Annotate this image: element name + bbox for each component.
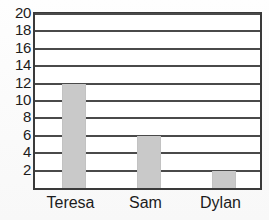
bar-sam	[137, 136, 161, 188]
gridline-14	[35, 65, 260, 67]
y-tick-label-18: 18	[3, 22, 31, 37]
y-tick-label-14: 14	[3, 57, 31, 72]
y-tick-label-16: 16	[3, 40, 31, 55]
y-tick-label-2: 2	[3, 162, 31, 177]
bar-chart-screenshot: 20 18 16 14 12 10 8 6 4 2 Teresa Sam Dyl…	[0, 0, 269, 220]
y-tick-label-10: 10	[3, 92, 31, 107]
y-tick-label-20: 20	[3, 5, 31, 20]
y-tick-label-8: 8	[3, 109, 31, 124]
bar-teresa	[62, 84, 86, 188]
y-tick-label-12: 12	[3, 75, 31, 90]
x-tick-label-sam: Sam	[108, 193, 183, 213]
x-axis: Teresa Sam Dylan	[33, 193, 262, 217]
gridline-18	[35, 30, 260, 32]
gridline-20	[35, 13, 260, 15]
y-axis: 20 18 16 14 12 10 8 6 4 2	[0, 12, 31, 190]
y-tick-label-6: 6	[3, 127, 31, 142]
x-tick-label-teresa: Teresa	[33, 193, 108, 213]
bar-dylan	[212, 171, 236, 188]
gridline-16	[35, 48, 260, 50]
y-tick-label-4: 4	[3, 144, 31, 159]
plot-area	[33, 12, 262, 190]
x-tick-label-dylan: Dylan	[183, 193, 258, 213]
